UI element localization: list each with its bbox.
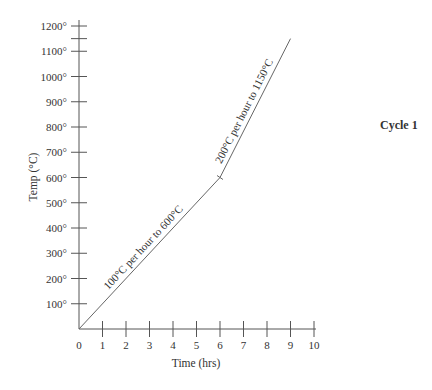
chart-title: Cycle 1 (380, 118, 418, 132)
x-tick-label: 2 (123, 339, 129, 351)
annotation-ramp-1: 100°C per hour to 600°C (101, 203, 185, 292)
x-ticks: 012345678910 (76, 321, 320, 351)
x-tick-label: 0 (76, 339, 82, 351)
y-tick-label: 200° (46, 273, 67, 285)
y-tick-label: 1100° (41, 45, 67, 57)
y-tick-label: 300° (46, 247, 67, 259)
y-tick-label: 800° (46, 121, 67, 133)
y-tick-label: 500° (46, 197, 67, 209)
y-tick-label: 1000° (41, 71, 67, 83)
x-tick-label: 7 (241, 339, 247, 351)
temperature-cycle-chart: 100°200°300°400°500°600°700°800°900°1000… (0, 0, 432, 390)
x-tick-label: 10 (309, 339, 321, 351)
y-tick-label: 100° (46, 298, 67, 310)
y-tick-label: 1200° (41, 20, 67, 32)
annotation-ramp-2: 200°C per hour to 1150°C (212, 57, 275, 165)
breakpoint-marker (217, 176, 223, 180)
x-axis-title: Time (hrs) (172, 357, 221, 370)
x-tick-label: 1 (100, 339, 106, 351)
x-tick-label: 9 (288, 339, 294, 351)
x-tick-label: 4 (170, 339, 176, 351)
x-tick-label: 6 (217, 339, 223, 351)
y-tick-label: 400° (46, 222, 67, 234)
y-tick-label: 900° (46, 96, 67, 108)
x-tick-label: 3 (147, 339, 153, 351)
y-tick-label: 600° (46, 172, 67, 184)
x-tick-label: 5 (194, 339, 200, 351)
x-tick-label: 8 (264, 339, 270, 351)
y-ticks: 100°200°300°400°500°600°700°800°900°1000… (41, 20, 87, 310)
y-axis-title: Temp (°C) (27, 152, 40, 201)
y-tick-label: 700° (46, 146, 67, 158)
